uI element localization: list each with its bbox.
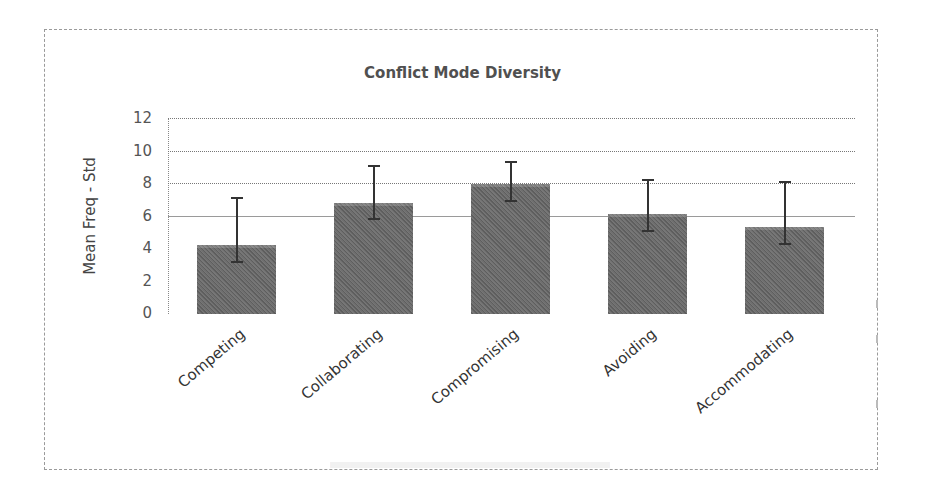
chart-title: Conflict Mode Diversity xyxy=(0,64,925,82)
y-tick-12: 12 xyxy=(112,109,152,127)
error-cap-top-accommodating xyxy=(779,181,791,183)
error-cap-bottom-accommodating xyxy=(779,243,791,245)
error-cap-top-competing xyxy=(231,197,243,199)
y-axis-label: Mean Freq - Std xyxy=(81,157,99,275)
page-margin-mark xyxy=(876,400,878,408)
error-bar-compromising xyxy=(510,162,512,201)
error-cap-bottom-avoiding xyxy=(642,230,654,232)
error-cap-top-collaborating xyxy=(368,165,380,167)
bar-compromising xyxy=(471,184,550,314)
error-bar-collaborating xyxy=(373,166,375,220)
y-tick-6: 6 xyxy=(112,207,152,225)
y-tick-10: 10 xyxy=(112,142,152,160)
page-margin-mark xyxy=(876,300,878,308)
error-bar-accommodating xyxy=(784,182,786,244)
error-cap-bottom-collaborating xyxy=(368,218,380,220)
error-cap-top-compromising xyxy=(505,161,517,163)
y-tick-2: 2 xyxy=(112,272,152,290)
error-cap-top-avoiding xyxy=(642,179,654,181)
gridline-10 xyxy=(168,151,855,152)
error-bar-competing xyxy=(236,198,238,261)
error-cap-bottom-compromising xyxy=(505,200,517,202)
error-bar-avoiding xyxy=(647,180,649,230)
y-tick-0: 0 xyxy=(112,304,152,322)
gridline-12 xyxy=(168,118,855,119)
error-cap-bottom-competing xyxy=(231,261,243,263)
y-tick-4: 4 xyxy=(112,239,152,257)
y-tick-8: 8 xyxy=(112,174,152,192)
page-margin-mark xyxy=(876,335,878,343)
